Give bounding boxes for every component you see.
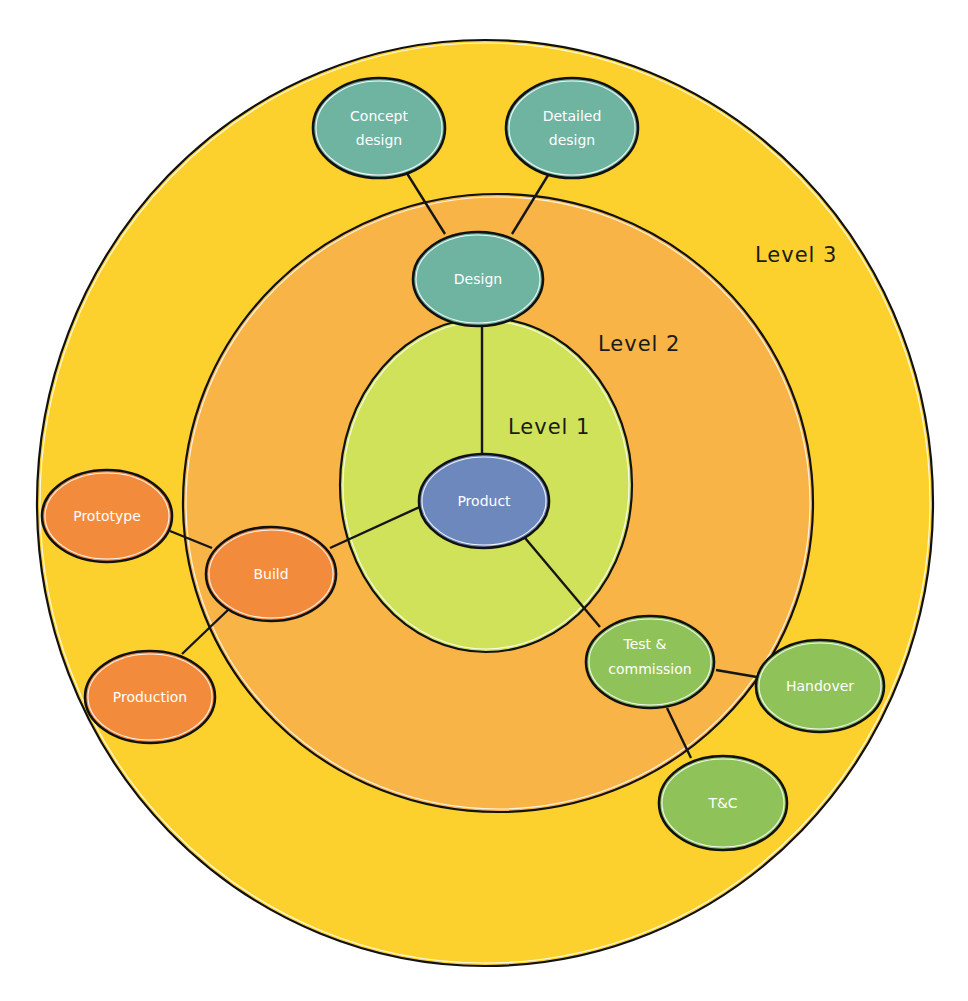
- node-detailed-design-label-line2: design: [549, 132, 595, 148]
- node-tc[interactable]: T&C: [659, 756, 787, 850]
- node-tc-label: T&C: [707, 795, 737, 811]
- node-production[interactable]: Production: [85, 651, 215, 743]
- node-prototype-label: Prototype: [73, 508, 141, 524]
- node-test-commission-label-line2: commission: [608, 661, 691, 677]
- level-3-label: Level 3: [755, 243, 837, 267]
- node-test-commission-label-line1: Test &: [623, 636, 667, 652]
- node-concept-design-label-line1: Concept: [350, 108, 408, 124]
- level-1-label: Level 1: [508, 415, 590, 439]
- node-test-commission[interactable]: Test & commission: [586, 616, 714, 708]
- node-build-label: Build: [253, 566, 288, 582]
- node-design[interactable]: Design: [413, 232, 543, 326]
- node-product-label: Product: [457, 493, 511, 509]
- node-concept-design[interactable]: Concept design: [313, 78, 445, 178]
- node-handover[interactable]: Handover: [756, 640, 884, 732]
- node-build[interactable]: Build: [206, 527, 336, 621]
- level-2-label: Level 2: [598, 332, 680, 356]
- node-prototype[interactable]: Prototype: [42, 470, 172, 562]
- node-product[interactable]: Product: [419, 454, 549, 548]
- node-detailed-design-label-line1: Detailed: [543, 108, 602, 124]
- node-design-label: Design: [454, 271, 502, 287]
- work-breakdown-diagram: Level 3 Level 2 Level 1 Product Design C…: [0, 0, 968, 1001]
- node-handover-label: Handover: [786, 678, 854, 694]
- node-production-label: Production: [113, 689, 187, 705]
- node-detailed-design[interactable]: Detailed design: [506, 78, 638, 178]
- node-concept-design-label-line2: design: [356, 132, 402, 148]
